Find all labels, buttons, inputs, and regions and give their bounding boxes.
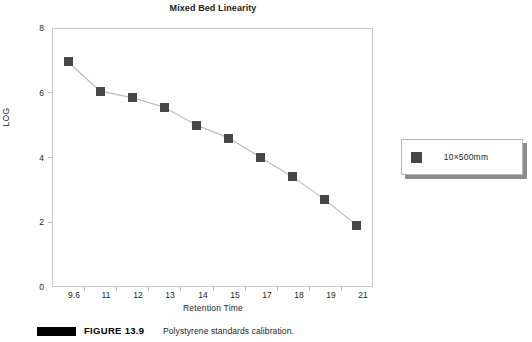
data-marker [96,87,105,96]
x-tick-label-8: 19 [315,290,347,300]
legend-entry: 10×500mm [402,140,522,174]
x-tick-label-1: 11 [90,290,122,300]
caption-bar-icon [37,327,76,336]
data-marker [352,221,361,230]
data-marker [224,134,233,143]
x-axis-title: Retention Time [52,303,374,313]
plot-area [52,28,373,287]
legend-swatch-icon [411,152,422,163]
figure-container: Mixed Bed Linearity LOG 8 6 4 2 0 9.6 11… [0,0,532,342]
y-tick-mark-4 [48,157,52,158]
y-tick-label-4: 4 [18,153,44,163]
data-marker [256,153,265,162]
data-marker [128,93,137,102]
y-tick-label-0: 0 [18,282,44,292]
y-axis-title: LOG [1,87,11,147]
legend-label: 10×500mm [422,152,522,162]
chart-title: Mixed Bed Linearity [52,3,374,13]
x-tick-label-7: 18 [283,290,315,300]
x-tick-label-9: 21 [347,290,379,300]
legend-box: 10×500mm [401,139,523,175]
data-marker [64,57,73,66]
x-tick-label-6: 17 [251,290,283,300]
y-tick-label-2: 2 [18,217,44,227]
x-tick-label-0: 9.6 [58,290,90,300]
data-marker [320,195,329,204]
caption-text: Polystyrene standards calibration. [163,326,294,336]
x-tick-label-5: 15 [219,290,251,300]
data-marker [288,172,297,181]
x-tick-label-4: 14 [187,290,219,300]
caption-figure-label: FIGURE 13.9 [84,325,144,336]
y-tick-mark-6 [48,92,52,93]
y-tick-label-8: 8 [18,23,44,33]
x-tick-label-2: 12 [122,290,154,300]
y-tick-label-6: 6 [18,88,44,98]
data-marker [160,103,169,112]
y-tick-mark-2 [48,222,52,223]
data-marker [192,121,201,130]
x-tick-label-3: 13 [154,290,186,300]
